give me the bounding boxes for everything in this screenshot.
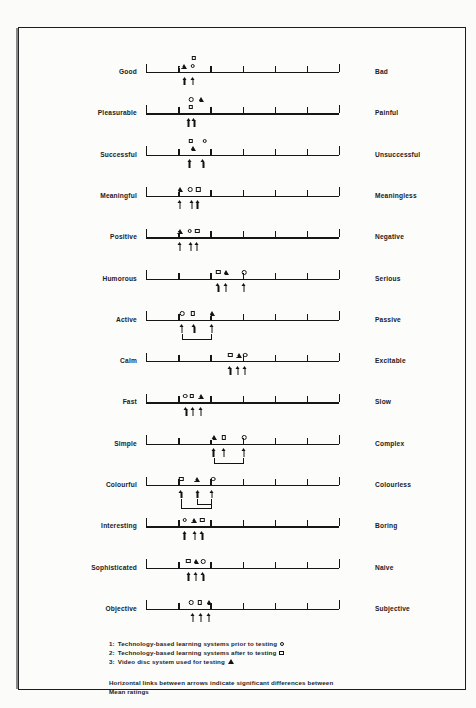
- data-marker-video: [211, 435, 217, 440]
- data-marker-after: [189, 139, 193, 143]
- axis-tick: [178, 107, 179, 113]
- axis-tick: [243, 520, 244, 526]
- axis-line: [146, 196, 339, 197]
- mean-arrow: [198, 407, 203, 416]
- mean-arrow: [206, 613, 211, 622]
- axis-line: [146, 526, 339, 527]
- axis-tick: [307, 273, 308, 279]
- row-left-label: Meaningful: [100, 192, 137, 200]
- mean-arrow: [192, 118, 197, 127]
- axis-tick: [243, 396, 244, 402]
- axis-end-cap: [146, 311, 147, 320]
- axis-tick: [307, 603, 308, 609]
- arrow-shaft: [186, 409, 188, 415]
- arrow-shaft: [179, 244, 181, 250]
- axis-end-cap: [146, 64, 147, 73]
- axis-tick: [210, 231, 211, 237]
- axis-tick: [275, 66, 276, 72]
- arrow-shaft: [211, 492, 213, 498]
- axis-line: [146, 444, 339, 445]
- scale-row: FastSlow: [19, 380, 467, 424]
- legend-item-label: Technology-based learning systems after …: [118, 648, 277, 657]
- arrow-shaft: [188, 120, 190, 126]
- legend-item-label: Technology-based learning systems prior …: [118, 639, 277, 648]
- axis-tick: [178, 520, 179, 526]
- axis-end-cap: [146, 559, 147, 568]
- data-marker-after: [198, 600, 202, 604]
- arrow-shaft: [190, 244, 192, 250]
- axis-end-cap: [146, 394, 147, 403]
- legend-item: 2:Technology-based learning systems afte…: [109, 648, 439, 657]
- axis-tick: [210, 562, 211, 568]
- row-left-label: Colourful: [106, 481, 137, 489]
- scale-row: InterestingBoring: [19, 504, 467, 548]
- legend-item: 1:Technology-based learning systems prio…: [109, 639, 439, 648]
- scale-row: SimpleComplex: [19, 422, 467, 466]
- axis-end-cap: [146, 518, 147, 527]
- axis-end-cap: [146, 229, 147, 238]
- axis-tick: [243, 314, 244, 320]
- mean-arrow: [200, 531, 205, 540]
- mean-arrow: [192, 324, 197, 333]
- mean-arrow: [190, 613, 195, 622]
- axis-tick: [243, 603, 244, 609]
- mean-arrow: [242, 448, 247, 457]
- axis-line: [146, 361, 339, 362]
- row-right-label: Colourless: [375, 481, 411, 489]
- mean-arrow: [189, 200, 194, 209]
- axis-tick: [307, 149, 308, 155]
- row-right-label: Passive: [375, 316, 401, 324]
- axis-tick: [178, 603, 179, 609]
- arrow-shaft: [230, 368, 232, 374]
- arrow-shaft: [203, 575, 205, 581]
- axis-tick: [178, 355, 179, 361]
- legend-item-label: Video disc system used for testing: [118, 657, 225, 666]
- axis-tick: [210, 355, 211, 361]
- legend-note-line-1: Horizontal links between arrows indicate…: [109, 678, 449, 687]
- arrow-shaft: [191, 203, 193, 209]
- data-marker-after: [195, 229, 199, 233]
- arrow-shaft: [195, 575, 197, 581]
- legend-item-number: 3:: [109, 657, 115, 666]
- axis-end-cap: [339, 146, 340, 155]
- mean-arrow: [198, 613, 203, 622]
- axis-tick: [307, 479, 308, 485]
- axis-tick: [307, 355, 308, 361]
- data-marker-prior: [189, 600, 194, 605]
- axis-tick: [307, 396, 308, 402]
- axis-line: [146, 609, 339, 610]
- scale-row: ObjectiveSubjective: [19, 587, 467, 631]
- page-canvas: GoodBadPleasurablePainfulSuccessfulUnsuc…: [0, 0, 476, 708]
- axis-tick: [178, 438, 179, 444]
- mean-arrow: [177, 200, 182, 209]
- axis-tick: [307, 314, 308, 320]
- mean-arrow: [190, 407, 195, 416]
- arrow-shaft: [244, 368, 246, 374]
- mean-arrow: [177, 242, 182, 251]
- mean-arrow: [211, 448, 216, 457]
- data-marker-prior: [242, 270, 247, 275]
- scale-row: SuccessfulUnsuccessful: [19, 133, 467, 177]
- scale-row: SophisticatedNaive: [19, 546, 467, 590]
- row-right-label: Boring: [375, 522, 397, 530]
- axis-end-cap: [146, 105, 147, 114]
- axis-tick: [275, 479, 276, 485]
- arrow-shaft: [194, 327, 196, 333]
- data-marker-after: [190, 311, 194, 315]
- row-left-label: Successful: [100, 151, 137, 159]
- axis-tick: [307, 520, 308, 526]
- arrow-shaft: [179, 203, 181, 209]
- axis-line: [146, 320, 339, 321]
- row-left-label: Sophisticated: [91, 564, 137, 572]
- axis-tick: [210, 396, 211, 402]
- scale-row: ColourfulColourless: [19, 463, 467, 507]
- arrow-shaft: [200, 409, 202, 415]
- mean-arrow: [195, 200, 200, 209]
- axis-line: [146, 72, 339, 73]
- mean-arrow: [223, 283, 228, 292]
- arrow-shaft: [237, 368, 239, 374]
- axis-end-cap: [146, 187, 147, 196]
- axis-end-cap: [339, 270, 340, 279]
- data-marker-video: [198, 97, 204, 102]
- row-left-label: Active: [116, 316, 137, 324]
